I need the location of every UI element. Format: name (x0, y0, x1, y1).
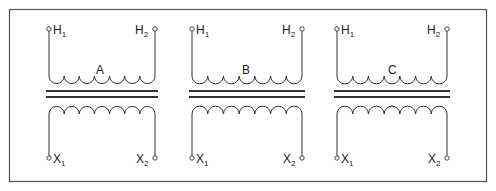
secondary-winding (49, 106, 155, 155)
unit-label-a: A (96, 63, 104, 77)
terminal-h2 (300, 27, 304, 31)
label-h2: H2 (427, 23, 441, 39)
terminal-x2 (445, 156, 449, 160)
label-h2: H2 (282, 23, 296, 39)
terminal-h2 (445, 27, 449, 31)
terminal-h2 (153, 27, 157, 31)
terminal-h1 (190, 27, 194, 31)
terminal-x1 (335, 156, 339, 160)
label-x2: X2 (136, 152, 149, 168)
secondary-winding (192, 106, 302, 156)
diagram-frame (10, 10, 487, 182)
label-x2: X2 (428, 152, 441, 168)
transformer-c: H1 H2 C X1 X2 (334, 23, 450, 168)
terminal-h1 (47, 27, 51, 31)
label-h2: H2 (135, 23, 149, 39)
label-x1: X1 (341, 152, 354, 168)
label-h1: H1 (53, 23, 67, 39)
terminal-x1 (47, 156, 51, 160)
unit-label-b: B (242, 63, 250, 77)
label-x1: X1 (196, 152, 209, 168)
terminal-x2 (300, 156, 304, 160)
terminal-h1 (335, 27, 339, 31)
label-x1: X1 (53, 152, 66, 168)
transformer-a: H1 H2 A X1 X2 (46, 23, 158, 168)
terminal-x2 (153, 156, 157, 160)
terminal-x1 (190, 156, 194, 160)
label-h1: H1 (196, 23, 210, 39)
label-h1: H1 (341, 23, 355, 39)
transformer-diagram: H1 H2 A X1 X2 H1 H2 B X1 X2 H1 H2 C (0, 0, 496, 191)
label-x2: X2 (283, 152, 296, 168)
unit-label-c: C (388, 63, 397, 77)
transformer-b: H1 H2 B X1 X2 (189, 23, 305, 168)
secondary-winding (337, 106, 447, 156)
